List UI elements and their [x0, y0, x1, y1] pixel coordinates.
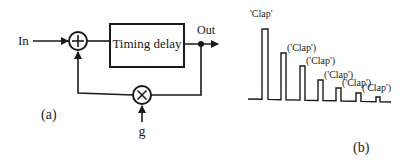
pulse-train-b: 'Clap'('Clap')('Clap')('Clap')('Clap')('… — [248, 8, 391, 156]
pulse-label: ('Clap') — [287, 42, 316, 54]
pulse-labels: 'Clap'('Clap')('Clap')('Clap')('Clap')('… — [250, 8, 391, 94]
pulse-label: ('Clap') — [306, 55, 335, 67]
block-diagram-a: In Timing delay Out g (a) — [18, 23, 218, 139]
figure-a-label: (a) — [41, 107, 57, 123]
sum-node — [69, 32, 87, 50]
output-label: Out — [197, 23, 216, 37]
delay-block-label: Timing delay — [112, 36, 182, 51]
pulse-label: ('Clap') — [362, 82, 391, 94]
comb-filter-figure: In Timing delay Out g (a) 'Clap'('Cla — [0, 0, 408, 167]
delay-block: Timing delay — [110, 24, 184, 67]
gain-label: g — [139, 124, 146, 139]
pulse-label: 'Clap' — [250, 8, 273, 19]
figure-b-label: (b) — [353, 140, 370, 156]
multiply-node — [133, 86, 151, 104]
input-label: In — [18, 33, 29, 48]
